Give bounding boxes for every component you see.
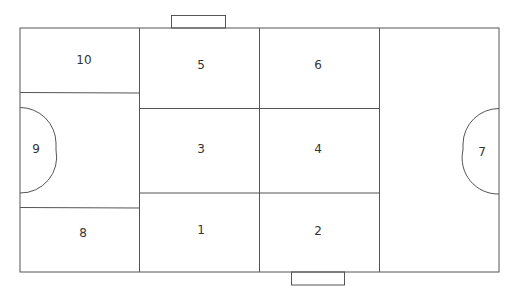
- zone-label-9: 9: [32, 142, 40, 156]
- divider-left-top: [20, 93, 140, 94]
- zone-label-3: 3: [197, 142, 205, 156]
- divider-left-bottom: [20, 208, 140, 209]
- zone-label-8: 8: [79, 226, 87, 240]
- zone-label-2: 2: [314, 224, 322, 238]
- zone-label-6: 6: [314, 58, 322, 72]
- bottom-goal: [292, 272, 345, 285]
- zone-label-10: 10: [76, 53, 91, 67]
- top-goal: [172, 16, 226, 29]
- zone-label-5: 5: [197, 58, 205, 72]
- zone-label-1: 1: [197, 223, 205, 237]
- zone-label-7: 7: [478, 145, 486, 159]
- zone-label-4: 4: [314, 142, 322, 156]
- field-diagram: [0, 0, 519, 297]
